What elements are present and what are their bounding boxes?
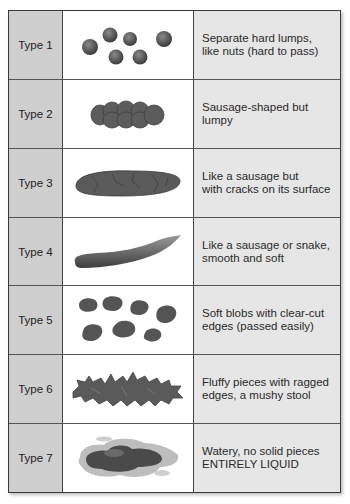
type-description: Like a sausage butwith cracks on its sur…	[194, 149, 340, 217]
table-row-type-3: Type 3 Like a sausage butwith cracks on …	[9, 148, 340, 217]
type-description: Watery, no solid piecesENTIRELY LIQUID	[194, 424, 340, 492]
type-description: Fluffy pieces with raggededges, a mushy …	[194, 355, 340, 423]
stool-chart-table: Type 1 Separate hard lumps,like nuts (ha…	[8, 10, 341, 493]
table-row-type-2: Type 2 Sausage-shaped but lumpy	[9, 79, 340, 148]
table-row-type-4: Type 4 Like a sausage or snake,smooth an…	[9, 217, 340, 286]
type-label: Type 2	[9, 80, 63, 148]
type-label: Type 6	[9, 355, 63, 423]
type-4-illustration	[63, 218, 194, 286]
type-description: Like a sausage or snake,smooth and soft	[194, 218, 340, 286]
table-row-type-1: Type 1 Separate hard lumps,like nuts (ha…	[9, 11, 340, 79]
type-1-illustration	[63, 11, 194, 79]
type-label: Type 4	[9, 218, 63, 286]
type-description: Soft blobs with clear-cutedges (passed e…	[194, 286, 340, 354]
table-row-type-7: Type 7 Watery, no solid piecesENTIRELY L…	[9, 423, 340, 492]
type-label: Type 5	[9, 286, 63, 354]
type-description: Sausage-shaped but lumpy	[194, 80, 340, 148]
type-5-illustration	[63, 286, 194, 354]
type-label: Type 7	[9, 424, 63, 492]
type-description: Separate hard lumps,like nuts (hard to p…	[194, 11, 340, 79]
type-2-illustration	[63, 80, 194, 148]
type-3-illustration	[63, 149, 194, 217]
table-row-type-5: Type 5 Soft blobs with clear-cutedges (p…	[9, 285, 340, 354]
table-row-type-6: Type 6 Fluffy pieces with raggededges, a…	[9, 354, 340, 423]
type-label: Type 3	[9, 149, 63, 217]
type-6-illustration	[63, 355, 194, 423]
type-7-illustration	[63, 424, 194, 492]
type-label: Type 1	[9, 11, 63, 79]
